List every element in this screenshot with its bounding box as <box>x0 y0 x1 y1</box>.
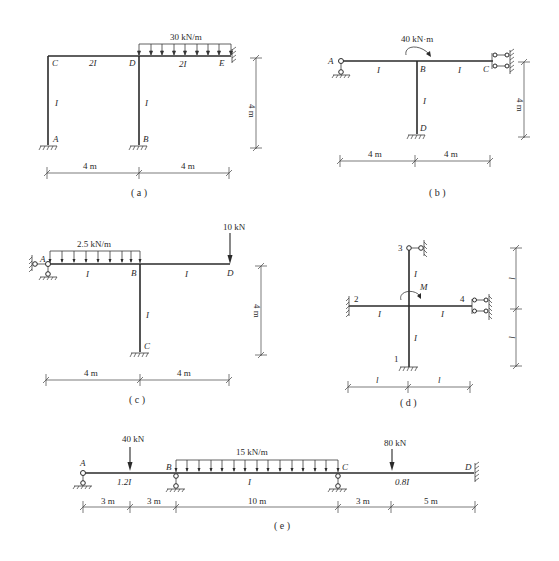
panel-caption: ( d ) <box>400 397 417 409</box>
node-label-C: C <box>342 462 349 472</box>
node-label-E: E <box>218 58 225 68</box>
node-label-B: B <box>131 268 137 278</box>
stiffness-label: I <box>144 98 149 108</box>
load-label: 10 kN <box>223 222 246 232</box>
distributed-load-icon <box>138 44 233 55</box>
stiffness-label: I <box>440 309 445 319</box>
load-label: 80 kN <box>384 438 407 448</box>
fixed-support-icon <box>129 146 147 150</box>
node-label-A: A <box>79 458 86 468</box>
fixed-support-icon <box>407 135 425 139</box>
point-load-arrow-icon <box>228 233 233 264</box>
node-label-4: 4 <box>460 294 465 304</box>
fixed-support-icon <box>232 47 236 63</box>
moment-label: M <box>419 282 428 292</box>
dimension-label: 4 m <box>252 304 262 318</box>
dimension-label: 3 m <box>147 496 161 506</box>
sliding-support-icon <box>472 294 492 320</box>
stiffness-label: I <box>377 309 382 319</box>
stiffness-label: 1.2I <box>117 477 132 487</box>
load-label: 15 kN/m <box>236 447 268 457</box>
fixed-support-icon <box>475 462 479 482</box>
node-label-A: A <box>39 254 46 264</box>
moment-label: 40 kN·m <box>401 34 433 44</box>
panel-d: M 3 2 4 1 I I I I l l <box>345 240 522 409</box>
node-label-C: C <box>52 58 59 68</box>
node-label-C: C <box>483 64 490 74</box>
panel-caption: ( e ) <box>274 520 290 532</box>
node-label-3: 3 <box>398 243 403 253</box>
dimension-label: 4 m <box>83 161 97 171</box>
stiffness-label: I <box>184 269 189 279</box>
dimension-label: 4 m <box>247 104 257 118</box>
fixed-support-icon <box>346 296 349 317</box>
stiffness-label: I <box>145 310 150 320</box>
dimension-label: 4 m <box>177 368 191 378</box>
dimension-label: l <box>376 375 379 385</box>
stiffness-label: I <box>457 65 462 75</box>
load-label: 30 kN/m <box>170 32 202 42</box>
stiffness-label: I <box>413 269 418 279</box>
dimension-label: l <box>438 375 441 385</box>
fixed-support-icon <box>130 353 149 357</box>
dimension-label: 4 m <box>515 98 525 112</box>
stiffness-label: I <box>54 98 59 108</box>
structural-diagrams-figure: 30 kN/m C D E A <box>0 0 559 561</box>
distributed-load-icon <box>49 251 142 263</box>
dimension-line <box>80 501 478 513</box>
fixed-support-icon <box>399 367 418 371</box>
node-label-C: C <box>144 341 151 351</box>
stiffness-label: I <box>413 333 418 343</box>
node-label-A: A <box>327 56 334 66</box>
dimension-label: 4 m <box>84 368 98 378</box>
load-label: 40 kN <box>122 434 145 444</box>
stiffness-label: I <box>85 269 90 279</box>
dimension-label: 4 m <box>368 149 382 159</box>
load-label: 2.5 kN/m <box>77 239 111 249</box>
dimension-line <box>510 245 522 369</box>
point-load-arrow-icon <box>390 449 395 471</box>
panel-caption: ( c ) <box>129 394 145 406</box>
moment-arrow-icon <box>401 291 421 300</box>
dimension-label: 4 m <box>181 161 195 171</box>
pin-support-icon <box>328 474 347 492</box>
fixed-support-icon <box>39 146 57 150</box>
pin-support-icon <box>166 474 185 492</box>
dimension-label: 5 m <box>424 496 438 506</box>
point-load-arrow-icon <box>128 447 133 471</box>
panel-a: 30 kN/m C D E A <box>39 32 262 199</box>
panel-c: 2.5 kN/m 10 kN <box>29 222 267 406</box>
node-label-A: A <box>52 134 59 144</box>
dimension-line <box>43 374 232 386</box>
panel-e: 40 kN 15 kN/m <box>73 434 479 532</box>
sliding-support-icon <box>492 49 514 74</box>
panel-caption: ( b ) <box>429 187 446 199</box>
node-label-2: 2 <box>354 294 359 304</box>
dimension-label: l <box>507 277 517 280</box>
distributed-load-icon <box>175 460 340 472</box>
dimension-label: l <box>507 336 517 339</box>
stiffness-label: 0.8I <box>395 477 410 487</box>
panel-b: 40 kN·m A B C D I I I 4 m 4 m 4 m <box>327 34 530 199</box>
dimension-label: 10 m <box>248 496 266 506</box>
dimension-line <box>345 381 473 393</box>
panel-caption: ( a ) <box>131 187 147 199</box>
node-label-1: 1 <box>394 354 399 364</box>
dimension-line <box>337 155 493 167</box>
dimension-label: 3 m <box>356 496 370 506</box>
stiffness-label: I <box>422 96 427 106</box>
dimension-label: 3 m <box>101 496 115 506</box>
stiffness-label: I <box>376 65 381 75</box>
moment-arrow-icon <box>406 47 431 57</box>
node-label-D: D <box>419 123 427 133</box>
node-label-B: B <box>143 134 149 144</box>
node-label-D: D <box>226 268 234 278</box>
stiffness-label: 2I <box>89 58 98 68</box>
dimension-label: 4 m <box>444 149 458 159</box>
stiffness-label: 2I <box>179 59 188 69</box>
dimension-line <box>250 55 262 151</box>
node-label-B: B <box>420 64 426 74</box>
node-label-D: D <box>464 462 472 472</box>
node-label-B: B <box>166 462 172 472</box>
stiffness-label: I <box>247 477 252 487</box>
